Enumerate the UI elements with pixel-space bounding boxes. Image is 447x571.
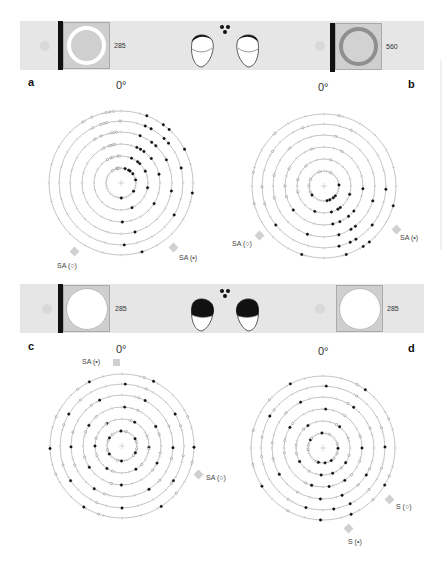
blur-dot-right (315, 304, 325, 314)
polar-plot-c (42, 366, 202, 526)
sa-open-label-a: SA (○) (57, 262, 77, 269)
blur-dot-left (42, 304, 52, 314)
eyes-icon-top (180, 20, 270, 70)
polar-plot-b (244, 106, 404, 266)
zero-degree-label-b: 0° (318, 81, 329, 93)
panel-letter-c: c (28, 340, 34, 352)
sa-filled-label-a: SA (•) (179, 254, 197, 261)
zero-degree-label-c: 0° (116, 343, 127, 355)
polar-plot-a (41, 103, 201, 263)
panel-letter-a: a (28, 76, 34, 88)
stimulus-disc-white (66, 288, 108, 330)
sa-filled-label-c: SA (•) (82, 358, 100, 365)
zero-degree-label-d: 0° (318, 345, 329, 357)
s-open-label-d: S (○) (396, 503, 412, 510)
stimulus-ring-white (67, 26, 106, 65)
panel-letter-b: b (408, 78, 415, 90)
wavelength-label-d: 285 (387, 305, 399, 312)
panel-letter-d: d (408, 342, 415, 354)
stimulus-box-d (336, 285, 383, 332)
sa-open-label-c: SA (○) (206, 474, 226, 481)
blur-dot-right (315, 41, 325, 51)
sa-filled-label-b: SA (•) (400, 234, 418, 241)
wavelength-label-b: 560 (386, 43, 398, 50)
zero-degree-label-a: 0° (116, 79, 127, 91)
wavelength-label-a: 285 (114, 42, 126, 49)
sa-open-label-b: SA (○) (232, 240, 252, 247)
wavelength-label-c: 285 (115, 305, 127, 312)
stimulus-box-a (63, 22, 110, 69)
stimulus-box-b (335, 23, 382, 70)
eyes-icon-bottom (180, 284, 270, 334)
polar-plot-d (243, 368, 403, 528)
page-edge (440, 60, 442, 250)
stimulus-box-c (63, 285, 110, 332)
stimulus-disc-white (339, 288, 381, 330)
stimulus-ring-dark (339, 27, 378, 66)
sa-filled-marker-c (113, 359, 120, 366)
blur-dot-left (40, 41, 50, 51)
s-filled-label-d: S (•) (348, 538, 362, 545)
